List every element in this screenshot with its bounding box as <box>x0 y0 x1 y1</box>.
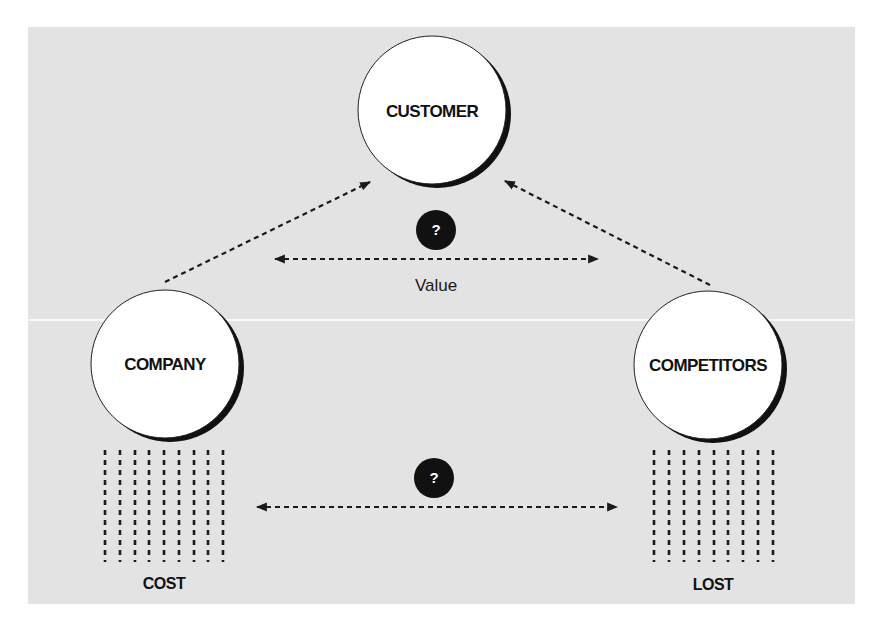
svg-text:?: ? <box>429 469 438 486</box>
value-triangle-diagram: CUSTOMER COMPANY COMPETITORS ? Value ? C… <box>0 0 875 626</box>
value-label: Value <box>415 276 457 295</box>
lost-label: LOST <box>693 576 734 593</box>
company-label: COMPANY <box>124 355 207 374</box>
competitors-label: COMPETITORS <box>649 356 767 375</box>
customer-label: CUSTOMER <box>386 102 478 121</box>
value-question-marker: ? <box>416 210 456 250</box>
cost-label: COST <box>143 575 186 592</box>
cost-question-marker: ? <box>414 458 454 498</box>
svg-text:?: ? <box>431 221 440 238</box>
